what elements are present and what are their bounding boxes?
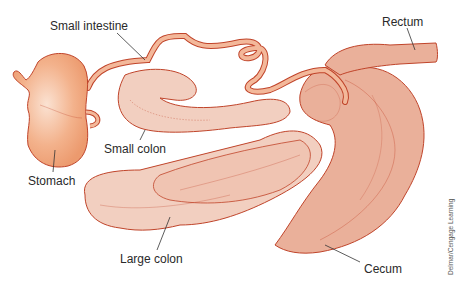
image-credit: Delmar/Cengage Learning [447, 199, 454, 275]
digestive-tract-diagram: Small intestine Rectum Small colon Stoma… [0, 0, 461, 286]
label-cecum: Cecum [364, 263, 402, 275]
label-small-colon: Small colon [104, 143, 166, 155]
stomach-shape [13, 53, 98, 167]
anatomy-illustration [0, 0, 461, 286]
label-rectum: Rectum [382, 16, 423, 28]
label-large-colon: Large colon [120, 253, 183, 265]
small-colon-shape [118, 69, 290, 132]
label-stomach: Stomach [28, 175, 75, 187]
label-small-intestine: Small intestine [50, 20, 128, 32]
